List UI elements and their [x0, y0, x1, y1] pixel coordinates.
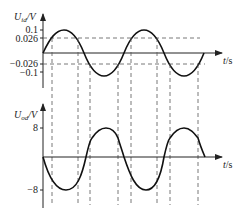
guide-lines [52, 38, 198, 205]
input-plot: Uid/V 0.1 0.026 −0.026 −0.1 t/s [10, 11, 233, 88]
output-plot: Uod/V 8 −8 t/s [14, 104, 233, 208]
bottom-y-label: Uod/V [14, 109, 39, 122]
bottom-x-label: t/s [223, 159, 233, 170]
tick-8: 8 [33, 122, 38, 133]
top-x-label: t/s [223, 55, 233, 66]
tick-0.026: 0.026 [16, 33, 39, 44]
top-y-label: Uid/V [14, 11, 37, 24]
waveform-diagram: Uid/V 0.1 0.026 −0.026 −0.1 t/s Uod/V 8 … [0, 0, 245, 216]
output-curve [43, 128, 205, 190]
tick-neg-0.1: −0.1 [20, 67, 38, 78]
tick-neg-8: −8 [27, 184, 38, 195]
